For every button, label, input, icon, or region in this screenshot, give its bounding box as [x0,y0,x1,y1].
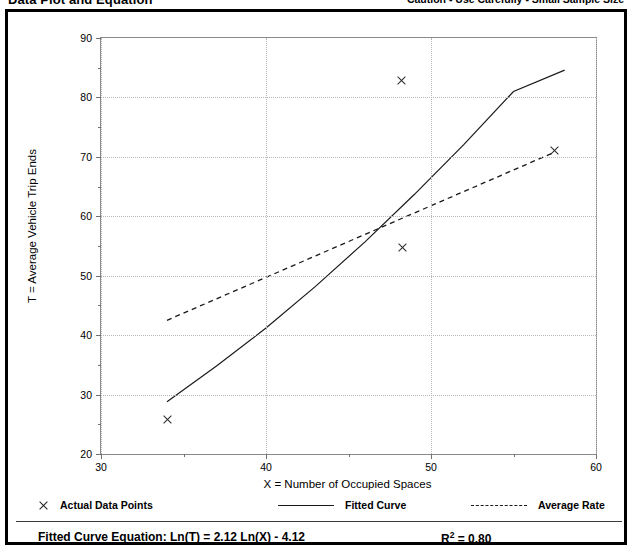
y-axis-tick [96,216,101,217]
y-axis-tick-label: 80 [80,92,92,102]
r-squared-label: R [441,532,450,546]
gridline-vertical [596,38,597,454]
chart-frame: T = Average Vehicle Trip Ends X = Number… [5,9,627,545]
gridline-horizontal [101,335,596,336]
x-axis-minor-tick [349,454,350,457]
x-axis-tick-label: 30 [95,462,107,473]
y-axis-title: T = Average Vehicle Trip Ends [26,126,38,326]
y-axis-minor-tick [98,365,101,366]
legend-item-fitted-curve: Fitted Curve [278,495,406,515]
y-axis-tick-label: 50 [80,271,92,281]
y-axis-minor-tick [98,187,101,188]
x-axis-tick [266,454,267,459]
legend-label: Average Rate [538,499,605,511]
footer-divider [16,521,622,522]
legend-label: Actual Data Points [60,499,153,511]
series-layer [101,38,596,454]
gridline-horizontal [101,97,596,98]
y-axis-minor-tick [98,305,101,306]
y-axis-minor-tick [98,127,101,128]
y-axis-tick-label: 70 [80,152,92,162]
x-axis-tick-label: 60 [590,462,602,473]
y-axis-tick-label: 90 [80,33,92,43]
gridline-horizontal [101,216,596,217]
y-axis-tick [96,395,101,396]
y-axis-minor-tick [98,68,101,69]
gridline-vertical [101,38,102,454]
y-axis-tick [96,97,101,98]
solid-line-icon [278,505,334,506]
x-axis-minor-tick [184,454,185,457]
y-axis-tick [96,276,101,277]
footer-equation-row: Fitted Curve Equation: Ln(T) = 2.12 Ln(X… [16,527,622,549]
series-line-average-rate [167,152,555,320]
x-axis-tick [101,454,102,459]
y-axis-tick [96,335,101,336]
plot-canvas: 304050602030405060708090 [101,38,596,454]
caution-note: Caution - Use Carefully - Small Sample S… [407,0,624,5]
r-squared-number: = 0.80 [458,532,492,546]
gridline-horizontal [101,276,596,277]
chart-page: Data Plot and Equation Caution - Use Car… [0,0,632,549]
gridline-horizontal [101,395,596,396]
x-axis-tick [596,454,597,459]
dashed-line-icon [471,505,527,506]
plot-area: 304050602030405060708090 [100,37,597,455]
legend-item-actual-data-points: Actual Data Points [38,495,153,515]
r-squared-value: R2 = 0.80 [441,530,491,546]
x-axis-minor-tick [514,454,515,457]
x-axis-tick [431,454,432,459]
series-line-fitted-curve [167,70,565,402]
y-axis-tick [96,38,101,39]
x-axis-tick-label: 50 [425,462,437,473]
legend-item-average-rate: Average Rate [471,495,605,515]
y-axis-tick-label: 20 [80,449,92,459]
r-squared-exponent: 2 [450,530,455,540]
gridline-horizontal [101,157,596,158]
fitted-curve-equation: Fitted Curve Equation: Ln(T) = 2.12 Ln(X… [38,530,305,544]
y-axis-tick [96,157,101,158]
x-axis-tick-label: 40 [260,462,272,473]
y-axis-tick-label: 60 [80,211,92,221]
x-axis-title: X = Number of Occupied Spaces [100,478,595,490]
y-axis-tick-label: 40 [80,330,92,340]
y-axis-minor-tick [98,424,101,425]
y-axis-minor-tick [98,246,101,247]
legend-label: Fitted Curve [345,499,406,511]
x-marker-icon [38,500,49,511]
gridline-vertical [431,38,432,454]
chart-legend: Actual Data Points Fitted Curve Average … [16,495,622,517]
y-axis-tick [96,454,101,455]
gridline-vertical [266,38,267,454]
y-axis-tick-label: 30 [80,390,92,400]
page-title: Data Plot and Equation [8,0,152,7]
